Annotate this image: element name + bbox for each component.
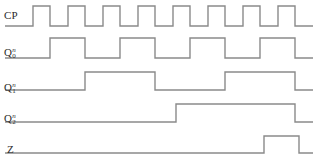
signal-label-q1n-base: Q [4,81,12,93]
signal-label-q0n-superscript: n [12,46,16,54]
signal-label-cp: CP [4,10,18,21]
signal-label-q1n-superscript: n [12,81,16,89]
waveform-q0n [5,38,313,58]
signal-label-q2n: Q2n [4,113,16,124]
timing-diagram: CP Q0n Q1n Q2n Z [0,0,321,166]
signal-label-q0n: Q0n [4,47,16,58]
waveform-q2n [5,104,313,122]
waveform-cp [5,6,313,26]
waveform-group [5,6,313,153]
signal-label-q0n-base: Q [4,46,12,58]
signal-label-cp-text: CP [4,9,18,21]
waveform-q1n [5,72,313,90]
signal-label-q1n: Q1n [4,82,16,93]
waveform-z [5,136,313,153]
signal-label-z-text: Z [7,143,14,155]
timing-waveform-canvas [0,0,321,166]
signal-label-q2n-superscript: n [12,112,16,120]
signal-label-z: Z [7,144,14,155]
signal-label-q2n-base: Q [4,112,12,124]
